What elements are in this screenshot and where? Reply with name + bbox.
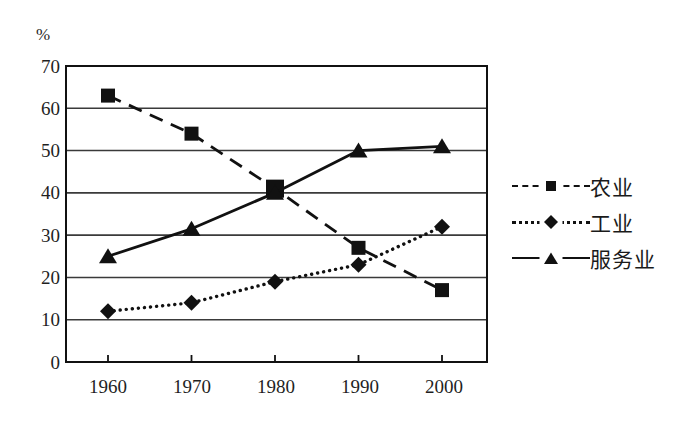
legend-label-services: 服务业 — [590, 243, 656, 273]
legend-key-industry — [512, 212, 590, 232]
legend-key-services — [512, 248, 590, 268]
square-data-point — [101, 89, 115, 103]
legend-label-agriculture: 农业 — [590, 171, 634, 201]
axis-frame — [66, 66, 487, 362]
data-series-layer — [99, 89, 451, 320]
legend-item-services[interactable]: 服务业 — [512, 240, 677, 276]
triangle-data-point — [183, 221, 201, 236]
diamond-data-point — [267, 274, 283, 290]
square-data-point — [352, 241, 366, 255]
legend-key-agriculture — [512, 176, 590, 196]
diamond-data-point — [434, 219, 450, 235]
diamond-marker-icon — [540, 214, 563, 231]
chart-legend: 农业 工业 服务业 — [512, 168, 677, 276]
diamond-data-point — [351, 257, 367, 273]
x-axis-ticks — [108, 355, 442, 362]
triangle-data-point — [99, 248, 117, 263]
legend-item-agriculture[interactable]: 农业 — [512, 168, 677, 204]
square-data-point — [435, 283, 449, 297]
square-marker-icon — [541, 179, 562, 194]
triangle-marker-icon — [540, 251, 563, 266]
chart-figure: % 70 60 50 40 30 20 10 0 1960 1970 1980 … — [0, 0, 677, 429]
square-data-point — [185, 127, 199, 141]
diamond-data-point — [100, 303, 116, 319]
diamond-data-point — [184, 295, 200, 311]
legend-item-industry[interactable]: 工业 — [512, 204, 677, 240]
legend-label-industry: 工业 — [590, 207, 634, 237]
